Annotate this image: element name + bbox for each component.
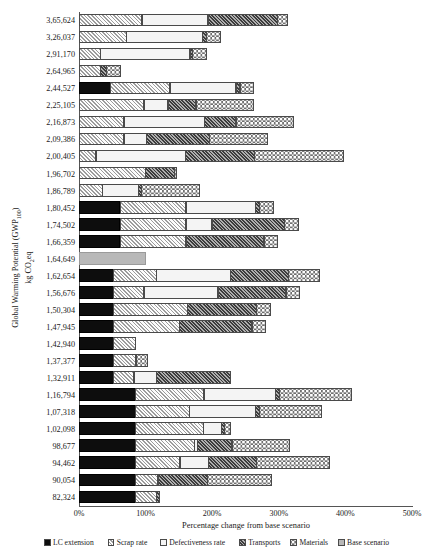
bar-segment-materials[interactable] (192, 48, 207, 61)
bar-segment-materials[interactable] (264, 235, 279, 248)
bar-segment-scrap-rate[interactable] (113, 371, 134, 384)
bar-segment-lc-extension[interactable] (79, 82, 111, 95)
bar-segment-lc-extension[interactable] (79, 337, 114, 350)
bar-segment-defectiveness-rate[interactable] (170, 82, 237, 95)
bar-segment-materials[interactable] (207, 474, 272, 487)
bar-segment-materials[interactable] (279, 388, 352, 401)
bar-segment-scrap-rate[interactable] (79, 65, 101, 78)
bar-segment-scrap-rate[interactable] (110, 82, 170, 95)
bar-segment-transports[interactable] (218, 286, 287, 299)
bar-segment-transports[interactable] (208, 14, 278, 27)
bar-segment-scrap-rate[interactable] (79, 14, 142, 27)
bar-segment-scrap-rate[interactable] (135, 439, 195, 452)
bar-segment-materials[interactable] (286, 286, 301, 299)
stacked-bar[interactable] (79, 65, 121, 78)
stacked-bar[interactable] (79, 167, 177, 180)
bar-segment-materials[interactable] (224, 422, 231, 435)
stacked-bar[interactable] (79, 48, 207, 61)
bar-segment-base-scenario[interactable] (79, 252, 146, 265)
stacked-bar[interactable] (79, 150, 344, 163)
bar-segment-defectiveness-rate[interactable] (144, 99, 169, 112)
bar-segment-materials[interactable] (259, 201, 274, 214)
bar-segment-transports[interactable] (185, 150, 255, 163)
bar-segment-defectiveness-rate[interactable] (189, 405, 256, 418)
legend-item-base-scenario[interactable]: Base scenario (338, 538, 389, 547)
stacked-bar[interactable] (79, 320, 266, 333)
bar-segment-defectiveness-rate[interactable] (124, 133, 147, 146)
bar-segment-transports[interactable] (204, 116, 236, 129)
legend-item-transports[interactable]: Transports (239, 538, 280, 547)
bar-segment-materials[interactable] (277, 14, 288, 27)
bar-segment-lc-extension[interactable] (79, 201, 120, 214)
bar-segment-scrap-rate[interactable] (135, 491, 157, 504)
stacked-bar[interactable] (79, 133, 268, 146)
stacked-bar[interactable] (79, 303, 271, 316)
bar-segment-scrap-rate[interactable] (120, 218, 187, 231)
bar-segment-transports[interactable] (156, 491, 160, 504)
bar-segment-defectiveness-rate[interactable] (134, 371, 157, 384)
bar-segment-scrap-rate[interactable] (135, 456, 180, 469)
bar-segment-scrap-rate[interactable] (113, 337, 136, 350)
stacked-bar[interactable] (79, 337, 136, 350)
bar-segment-defectiveness-rate[interactable] (204, 388, 276, 401)
bar-segment-lc-extension[interactable] (79, 320, 114, 333)
bar-segment-scrap-rate[interactable] (79, 167, 146, 180)
bar-segment-scrap-rate[interactable] (135, 388, 204, 401)
stacked-bar[interactable] (79, 269, 320, 282)
bar-segment-scrap-rate[interactable] (79, 133, 124, 146)
bar-segment-materials[interactable] (174, 167, 177, 180)
bar-segment-scrap-rate[interactable] (113, 320, 180, 333)
bar-segment-transports[interactable] (179, 320, 252, 333)
stacked-bar[interactable] (79, 252, 146, 265)
stacked-bar[interactable] (79, 201, 274, 214)
bar-segment-lc-extension[interactable] (79, 388, 136, 401)
bar-segment-defectiveness-rate[interactable] (186, 218, 213, 231)
bar-segment-scrap-rate[interactable] (79, 48, 101, 61)
bar-segment-materials[interactable] (196, 99, 254, 112)
bar-segment-materials[interactable] (141, 184, 200, 197)
bar-segment-transports[interactable] (146, 133, 209, 146)
bar-segment-lc-extension[interactable] (79, 405, 136, 418)
bar-segment-materials[interactable] (254, 150, 344, 163)
bar-segment-materials[interactable] (256, 303, 271, 316)
bar-segment-lc-extension[interactable] (79, 286, 114, 299)
bar-segment-lc-extension[interactable] (79, 218, 120, 231)
stacked-bar[interactable] (79, 82, 254, 95)
bar-segment-materials[interactable] (240, 82, 255, 95)
bar-segment-lc-extension[interactable] (79, 422, 136, 435)
bar-segment-scrap-rate[interactable] (113, 303, 188, 316)
bar-segment-materials[interactable] (232, 439, 291, 452)
stacked-bar[interactable] (79, 422, 231, 435)
bar-segment-scrap-rate[interactable] (120, 235, 187, 248)
bar-segment-lc-extension[interactable] (79, 354, 114, 367)
stacked-bar[interactable] (79, 439, 290, 452)
stacked-bar[interactable] (79, 371, 231, 384)
stacked-bar[interactable] (79, 14, 288, 27)
bar-segment-transports[interactable] (197, 439, 232, 452)
bar-segment-defectiveness-rate[interactable] (180, 456, 209, 469)
stacked-bar[interactable] (79, 388, 352, 401)
stacked-bar[interactable] (79, 354, 148, 367)
bar-segment-defectiveness-rate[interactable] (126, 31, 203, 44)
legend-item-scrap-rate[interactable]: Scrap rate (108, 538, 148, 547)
stacked-bar[interactable] (79, 405, 322, 418)
bar-segment-transports[interactable] (158, 474, 208, 487)
bar-segment-materials[interactable] (288, 269, 320, 282)
bar-segment-scrap-rate[interactable] (113, 286, 144, 299)
bar-segment-scrap-rate[interactable] (113, 354, 136, 367)
bar-segment-transports[interactable] (212, 218, 285, 231)
bar-segment-lc-extension[interactable] (79, 269, 114, 282)
bar-segment-transports[interactable] (168, 99, 197, 112)
bar-segment-defectiveness-rate[interactable] (100, 48, 190, 61)
stacked-bar[interactable] (79, 184, 200, 197)
legend-item-defectiveness-rate[interactable]: Defectiveness rate (160, 538, 225, 547)
bar-segment-materials[interactable] (256, 456, 329, 469)
bar-segment-lc-extension[interactable] (79, 491, 136, 504)
stacked-bar[interactable] (79, 474, 272, 487)
stacked-bar[interactable] (79, 235, 278, 248)
bar-segment-materials[interactable] (252, 320, 267, 333)
bar-segment-scrap-rate[interactable] (135, 422, 204, 435)
bar-segment-lc-extension[interactable] (79, 474, 136, 487)
bar-segment-defectiveness-rate[interactable] (144, 286, 219, 299)
legend-item-materials[interactable]: Materials (290, 538, 328, 547)
